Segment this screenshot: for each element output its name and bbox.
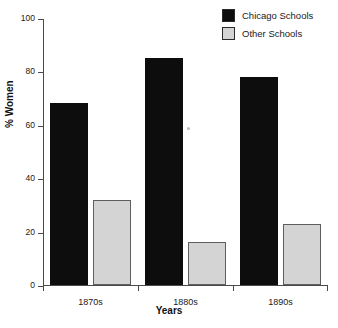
plot-area: 020406080100 1870s1880s1890s [43, 19, 328, 286]
bar-1890s-other-schools [283, 224, 321, 285]
image-speck-artifact [187, 127, 190, 130]
y-tick-label: 40 [26, 173, 35, 184]
y-tick-label: 100 [21, 13, 35, 24]
bar-1880s-chicago-schools [145, 58, 183, 285]
bar-1880s-other-schools [188, 242, 226, 285]
bar-chart: Chicago Schools Other Schools 0204060801… [0, 0, 338, 328]
y-axis-title: % Women [4, 80, 15, 128]
x-tick [43, 286, 44, 291]
y-tick: 60 [38, 126, 43, 127]
y-axis-line [43, 19, 44, 286]
x-axis-title: Years [0, 305, 338, 316]
x-tick [327, 286, 328, 291]
y-tick-label: 60 [26, 120, 35, 131]
y-tick: 80 [38, 72, 43, 73]
bar-1890s-chicago-schools [240, 77, 278, 285]
y-tick: 40 [38, 179, 43, 180]
x-axis-line [43, 285, 328, 286]
y-tick-label: 0 [30, 280, 35, 291]
y-tick: 100 [38, 19, 43, 20]
x-tick [233, 286, 234, 291]
bar-1870s-other-schools [93, 200, 131, 285]
y-tick: 20 [38, 233, 43, 234]
y-tick-label: 80 [26, 66, 35, 77]
bar-1870s-chicago-schools [50, 103, 88, 285]
y-tick-label: 20 [26, 227, 35, 238]
x-tick [138, 286, 139, 291]
